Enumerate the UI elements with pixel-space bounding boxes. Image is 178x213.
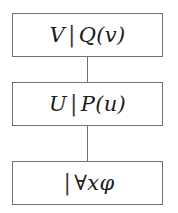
node-bottom-separator: | bbox=[61, 170, 75, 195]
connector-top-to-middle bbox=[87, 56, 88, 83]
diagram-node-middle[interactable]: U|P(u) bbox=[12, 82, 163, 126]
node-middle-left-term: U bbox=[49, 92, 67, 116]
node-middle-label: U|P(u) bbox=[49, 93, 126, 115]
node-bottom-variable: x bbox=[87, 171, 99, 195]
node-top-right-term: Q(v) bbox=[79, 23, 126, 47]
node-top-left-term: V bbox=[50, 23, 65, 47]
node-bottom-formula: φ bbox=[99, 171, 114, 195]
diagram-node-bottom[interactable]: |∀xφ bbox=[12, 161, 163, 205]
node-middle-separator: | bbox=[67, 91, 81, 116]
node-bottom-label: |∀xφ bbox=[61, 172, 115, 194]
node-top-label: V|Q(v) bbox=[50, 24, 126, 46]
universal-quantifier-icon: ∀ bbox=[74, 171, 87, 195]
diagram-node-top[interactable]: V|Q(v) bbox=[12, 13, 163, 57]
node-middle-right-term: P(u) bbox=[81, 92, 126, 116]
diagram-canvas: V|Q(v) U|P(u) |∀xφ bbox=[0, 0, 178, 213]
node-top-separator: | bbox=[65, 22, 79, 47]
connector-middle-to-bottom bbox=[87, 125, 88, 162]
